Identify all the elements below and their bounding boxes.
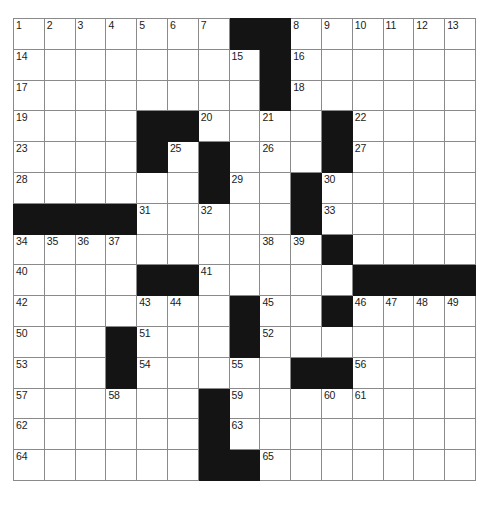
crossword-cell[interactable] [106,265,137,296]
crossword-cell[interactable] [291,326,322,357]
crossword-cell[interactable]: 23 [14,142,45,173]
crossword-cell[interactable] [106,296,137,327]
crossword-cell[interactable] [414,172,445,203]
crossword-cell[interactable]: 33 [321,203,352,234]
crossword-cell[interactable] [445,172,476,203]
crossword-cell[interactable]: 48 [414,296,445,327]
crossword-cell[interactable] [291,265,322,296]
crossword-cell[interactable] [106,49,137,80]
crossword-cell[interactable] [260,265,291,296]
crossword-cell[interactable]: 3 [75,19,106,50]
crossword-cell[interactable] [44,326,75,357]
crossword-cell[interactable] [445,419,476,450]
crossword-cell[interactable] [198,326,229,357]
crossword-cell[interactable] [137,80,168,111]
crossword-cell[interactable]: 61 [352,388,383,419]
crossword-cell[interactable]: 34 [14,234,45,265]
crossword-cell[interactable] [383,49,414,80]
crossword-cell[interactable] [414,142,445,173]
crossword-cell[interactable] [321,265,352,296]
crossword-cell[interactable] [260,419,291,450]
crossword-cell[interactable] [137,234,168,265]
crossword-cell[interactable]: 52 [260,326,291,357]
crossword-cell[interactable] [75,265,106,296]
crossword-cell[interactable]: 25 [167,142,198,173]
crossword-cell[interactable]: 19 [14,111,45,142]
crossword-cell[interactable] [445,326,476,357]
crossword-cell[interactable]: 50 [14,326,45,357]
crossword-cell[interactable] [352,419,383,450]
crossword-cell[interactable] [414,326,445,357]
crossword-cell[interactable] [229,111,260,142]
crossword-cell[interactable]: 53 [14,357,45,388]
crossword-cell[interactable] [198,357,229,388]
crossword-cell[interactable] [137,172,168,203]
crossword-cell[interactable]: 26 [260,142,291,173]
crossword-cell[interactable] [167,203,198,234]
crossword-cell[interactable] [260,172,291,203]
crossword-grid[interactable]: 1234567891011121314151617181920212223252… [13,18,476,481]
crossword-cell[interactable] [44,172,75,203]
crossword-cell[interactable] [383,388,414,419]
crossword-cell[interactable] [383,326,414,357]
crossword-cell[interactable] [445,49,476,80]
crossword-cell[interactable] [445,203,476,234]
crossword-cell[interactable] [445,450,476,481]
crossword-cell[interactable] [383,450,414,481]
crossword-cell[interactable] [106,419,137,450]
crossword-cell[interactable]: 28 [14,172,45,203]
crossword-cell[interactable]: 21 [260,111,291,142]
crossword-cell[interactable] [44,388,75,419]
crossword-cell[interactable] [414,111,445,142]
crossword-cell[interactable]: 17 [14,80,45,111]
crossword-cell[interactable] [167,234,198,265]
crossword-cell[interactable] [75,49,106,80]
crossword-cell[interactable] [137,49,168,80]
crossword-cell[interactable] [414,419,445,450]
crossword-cell[interactable] [106,172,137,203]
crossword-cell[interactable] [167,357,198,388]
crossword-cell[interactable] [445,388,476,419]
crossword-cell[interactable] [44,450,75,481]
crossword-cell[interactable] [44,111,75,142]
crossword-cell[interactable] [352,234,383,265]
crossword-cell[interactable]: 43 [137,296,168,327]
crossword-cell[interactable]: 12 [414,19,445,50]
crossword-cell[interactable] [75,326,106,357]
crossword-cell[interactable] [229,203,260,234]
crossword-cell[interactable] [383,111,414,142]
crossword-cell[interactable] [198,234,229,265]
crossword-cell[interactable]: 32 [198,203,229,234]
crossword-cell[interactable] [383,142,414,173]
crossword-cell[interactable]: 56 [352,357,383,388]
crossword-cell[interactable] [167,49,198,80]
crossword-cell[interactable] [383,357,414,388]
crossword-cell[interactable] [352,80,383,111]
crossword-cell[interactable]: 44 [167,296,198,327]
crossword-cell[interactable]: 45 [260,296,291,327]
crossword-cell[interactable]: 51 [137,326,168,357]
crossword-cell[interactable] [445,80,476,111]
crossword-cell[interactable] [137,419,168,450]
crossword-cell[interactable]: 41 [198,265,229,296]
crossword-cell[interactable]: 16 [291,49,322,80]
crossword-cell[interactable]: 11 [383,19,414,50]
crossword-cell[interactable]: 39 [291,234,322,265]
crossword-cell[interactable] [383,80,414,111]
crossword-cell[interactable]: 49 [445,296,476,327]
crossword-cell[interactable] [352,450,383,481]
crossword-cell[interactable]: 7 [198,19,229,50]
crossword-cell[interactable] [106,450,137,481]
crossword-cell[interactable]: 37 [106,234,137,265]
crossword-cell[interactable]: 57 [14,388,45,419]
crossword-cell[interactable] [137,388,168,419]
crossword-cell[interactable] [229,265,260,296]
crossword-cell[interactable] [75,296,106,327]
crossword-cell[interactable]: 13 [445,19,476,50]
crossword-cell[interactable] [229,234,260,265]
crossword-cell[interactable] [445,111,476,142]
crossword-cell[interactable] [198,80,229,111]
crossword-cell[interactable]: 20 [198,111,229,142]
crossword-cell[interactable]: 54 [137,357,168,388]
crossword-cell[interactable]: 6 [167,19,198,50]
